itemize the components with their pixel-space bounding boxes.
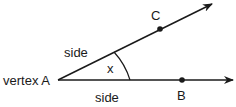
point-c <box>157 26 163 32</box>
vertex-label: vertex A <box>3 73 50 88</box>
angle-arc <box>114 52 130 80</box>
point-b <box>179 77 185 83</box>
angle-label: x <box>107 61 114 76</box>
lower-side-label: side <box>95 90 119 105</box>
angle-diagram: vertex A side side x C B <box>0 0 236 107</box>
point-c-label: C <box>151 8 160 23</box>
upper-side-label: side <box>64 45 88 60</box>
point-b-label: B <box>177 88 186 103</box>
ray-ac <box>58 4 212 80</box>
